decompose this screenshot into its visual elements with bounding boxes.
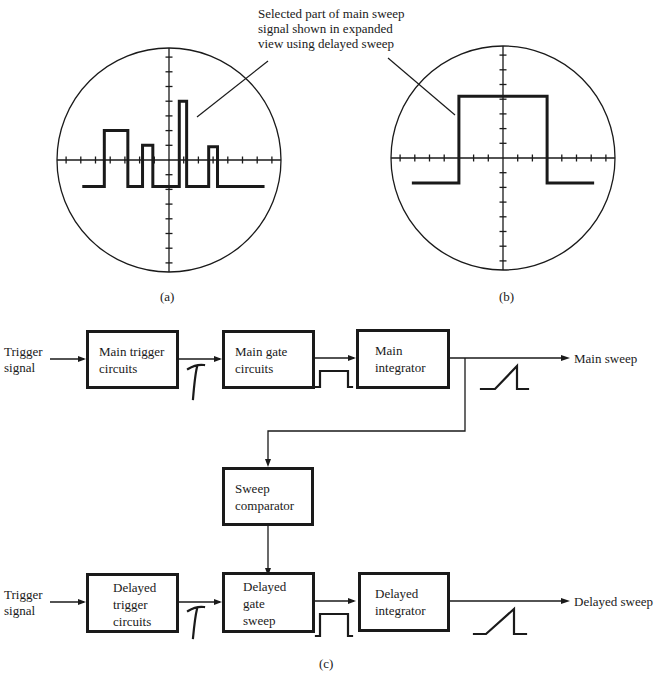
ramp-sawtooth-icon — [481, 366, 528, 389]
delayed-ramp-sawtooth-icon — [474, 609, 526, 634]
block-label: Main gate — [235, 343, 287, 360]
arrowhead — [561, 598, 570, 604]
label-line: signal — [4, 603, 43, 619]
block-label: gate — [243, 595, 286, 612]
arrowhead — [348, 598, 356, 604]
delayed-trigger-pulse-icon — [188, 607, 204, 638]
arrowhead — [78, 599, 86, 605]
block-label: Sweep — [235, 480, 294, 497]
main-sweep-output-label: Main sweep — [574, 351, 637, 366]
block-label: sweep — [243, 612, 286, 629]
sweep-comparator-block: Sweepcomparator — [222, 467, 314, 526]
label-line: Trigger — [4, 587, 43, 603]
label-line: signal — [4, 360, 43, 376]
gate-pulse-icon — [316, 371, 352, 387]
annotation-leader-b — [388, 58, 455, 115]
caption-a: (a) — [160, 289, 174, 305]
block-label: Delayed — [375, 585, 426, 602]
scope-b-display — [391, 46, 615, 270]
trigger-pulse-icon — [188, 365, 204, 399]
label-line: Trigger — [4, 344, 43, 360]
caption-b: (b) — [499, 289, 514, 305]
block-label: circuits — [235, 360, 287, 377]
arrowhead — [214, 599, 222, 605]
annotation-line: signal shown in expanded — [258, 21, 405, 36]
main-gate-circuits-block: Main gatecircuits — [222, 330, 315, 389]
main-trigger-input-label: Trigger signal — [4, 344, 43, 376]
arrowheads — [78, 355, 570, 605]
scope-a-display — [57, 48, 281, 272]
block-label: trigger — [113, 596, 156, 613]
delayed-gate-pulse-icon — [316, 614, 352, 636]
annotation-line: view using delayed sweep — [258, 36, 405, 51]
caption-c: (c) — [319, 656, 333, 672]
arrowhead — [561, 355, 570, 361]
delayed-gate-sweep-block: Delayedgatesweep — [222, 572, 315, 633]
block-label: Main — [375, 342, 426, 359]
arrowhead — [348, 355, 356, 361]
main-integrator-block: Mainintegrator — [356, 329, 450, 389]
block-label: circuits — [113, 613, 156, 630]
waveform-trace — [82, 101, 264, 186]
delayed-integrator-block: Delayedintegrator — [358, 572, 450, 632]
block-label: circuits — [99, 360, 164, 377]
arrowhead — [78, 356, 86, 362]
block-label: Delayed — [113, 579, 156, 596]
arrowhead — [265, 459, 271, 467]
block-label: comparator — [235, 497, 294, 514]
block-label: Delayed — [243, 578, 286, 595]
block-label: Main trigger — [99, 343, 164, 360]
annotation-line: Selected part of main sweep — [258, 6, 405, 21]
arrowhead — [214, 356, 222, 362]
delayed-trigger-input-label: Trigger signal — [4, 587, 43, 619]
main-trigger-circuits-block: Main triggercircuits — [86, 330, 179, 389]
block-label: integrator — [375, 359, 426, 376]
annotation-text: Selected part of main sweep signal shown… — [258, 6, 405, 51]
block-label: integrator — [375, 602, 426, 619]
delayed-trigger-circuits-block: Delayedtriggercircuits — [86, 573, 179, 633]
annotation-leader-a — [197, 61, 268, 117]
delayed-sweep-output-label: Delayed sweep — [574, 594, 653, 609]
